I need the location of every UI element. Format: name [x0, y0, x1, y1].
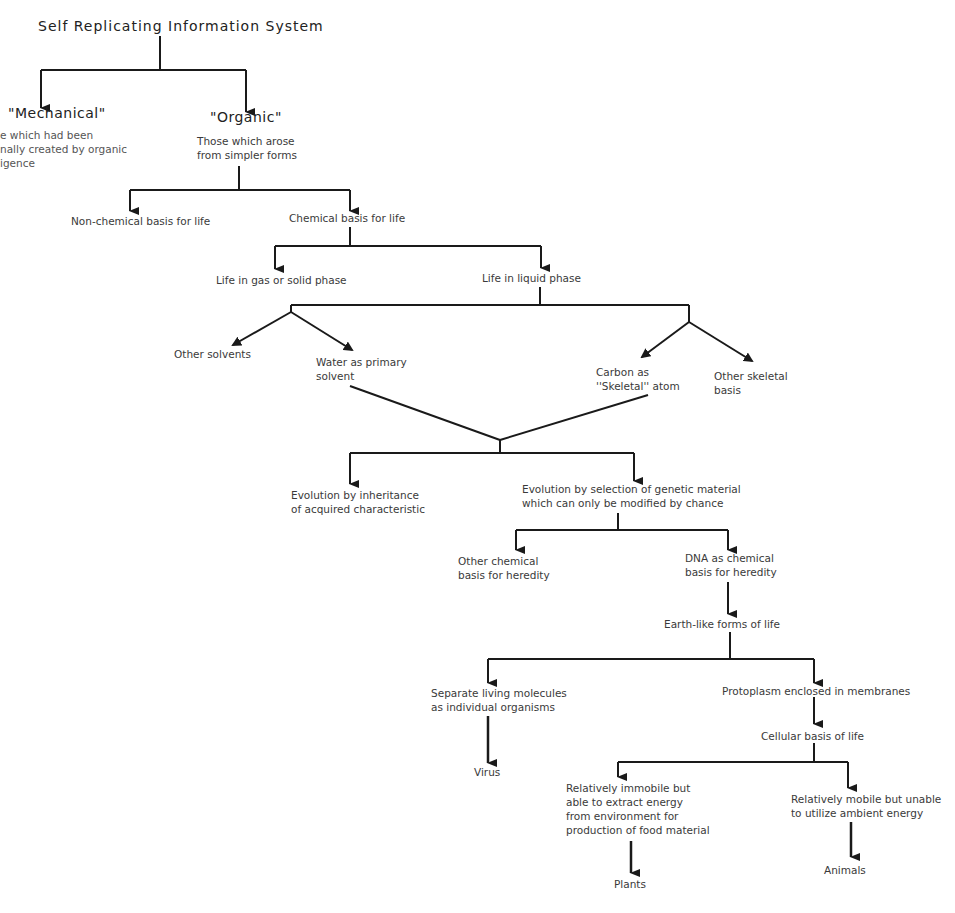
- node-selection: Evolution by selection of genetic materi…: [522, 482, 741, 510]
- node-organic: "Organic": [210, 110, 282, 124]
- node-mechanical-desc: e which had been nally created by organi…: [0, 128, 127, 170]
- node-mechanical: "Mechanical": [8, 106, 106, 120]
- node-protoplasm: Protoplasm enclosed in membranes: [722, 684, 910, 698]
- node-liquid: Life in liquid phase: [482, 271, 581, 285]
- node-earth-like: Earth-like forms of life: [664, 617, 780, 631]
- diagram-title: Self Replicating Information System: [38, 19, 324, 33]
- node-non-chemical: Non-chemical basis for life: [71, 214, 210, 228]
- node-water: Water as primary solvent: [316, 355, 407, 383]
- node-other-skeletal: Other skeletal basis: [714, 369, 788, 397]
- node-other-chemical-heredity: Other chemical basis for heredity: [458, 554, 550, 582]
- node-organic-desc: Those which arose from simpler forms: [197, 134, 297, 162]
- node-plants: Plants: [614, 877, 646, 891]
- node-carbon: Carbon as ''Skeletal'' atom: [596, 365, 680, 393]
- node-dna: DNA as chemical basis for heredity: [685, 551, 777, 579]
- node-gas-solid: Life in gas or solid phase: [216, 273, 347, 287]
- node-mobile: Relatively mobile but unable to utilize …: [791, 792, 941, 820]
- node-chemical: Chemical basis for life: [289, 211, 405, 225]
- node-cellular: Cellular basis of life: [761, 729, 864, 743]
- node-inheritance: Evolution by inheritance of acquired cha…: [291, 488, 425, 516]
- node-virus: Virus: [474, 765, 500, 779]
- node-separate-molecules: Separate living molecules as individual …: [431, 686, 567, 714]
- node-immobile: Relatively immobile but able to extract …: [566, 781, 710, 837]
- node-other-solvents: Other solvents: [174, 347, 251, 361]
- node-animals: Animals: [824, 863, 866, 877]
